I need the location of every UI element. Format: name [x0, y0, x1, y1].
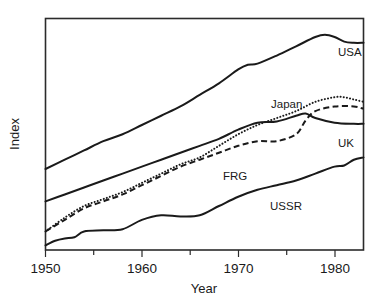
- x-axis-title: Year: [191, 281, 218, 296]
- line-chart: 1950 1960 1970 1980 Year Index USA Japan…: [0, 0, 385, 299]
- series-label-usa: USA: [338, 46, 362, 58]
- series-label-ussr: USSR: [270, 200, 302, 212]
- chart-background: [0, 0, 385, 299]
- x-tick-label-1970: 1970: [223, 261, 253, 276]
- series-label-uk: UK: [338, 137, 354, 149]
- x-tick-label-1950: 1950: [30, 261, 60, 276]
- x-tick-label-1960: 1960: [127, 261, 157, 276]
- x-tick-label-1980: 1980: [320, 261, 350, 276]
- series-label-japan: Japan: [271, 98, 302, 110]
- chart-figure: 1950 1960 1970 1980 Year Index USA Japan…: [0, 0, 385, 299]
- series-label-frg: FRG: [223, 170, 247, 182]
- y-axis-title: Index: [7, 118, 22, 150]
